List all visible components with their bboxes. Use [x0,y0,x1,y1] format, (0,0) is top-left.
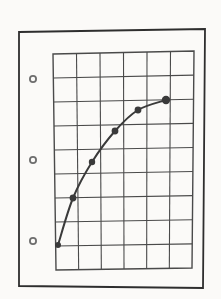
data-point-4 [112,128,119,135]
data-point-1 [55,242,61,248]
data-point-2 [70,195,77,202]
data-point-5 [135,107,142,114]
data-point-6 [162,96,170,104]
screenshot-canvas [0,0,221,299]
graph-paper-figure [0,0,221,299]
data-point-3 [89,159,95,165]
grid-line-vertical-3 [124,53,125,270]
